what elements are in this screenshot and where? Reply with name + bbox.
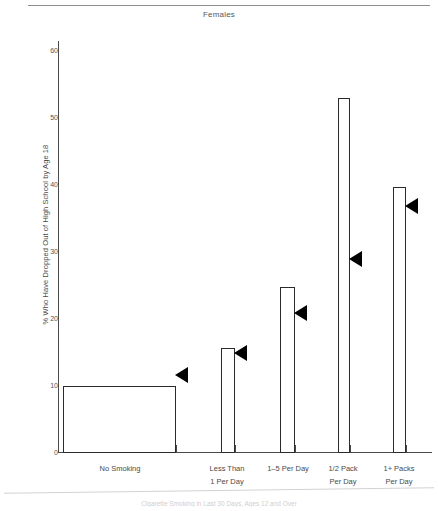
x-label-less-than-1-per-day-line1: Less Than bbox=[210, 462, 245, 475]
plot-area: 0 10 20 30 40 50 60 bbox=[58, 38, 432, 454]
x-tick-mark-1 bbox=[176, 445, 177, 453]
bar-1-plus-packs-per-day[interactable] bbox=[338, 98, 350, 453]
y-tick-40: 40 bbox=[18, 181, 58, 188]
pointer-bar-1-icon bbox=[175, 367, 188, 383]
x-label-1-5-per-day-line1: 1–5 Per Day bbox=[267, 462, 309, 475]
x-tick-mark-9 bbox=[406, 445, 407, 453]
y-tick-50: 50 bbox=[18, 114, 58, 121]
chart-page: Females % Who Have Dropped Out of High S… bbox=[0, 0, 438, 511]
x-label-no-smoking-line1: No Smoking bbox=[100, 462, 141, 475]
y-tick-60: 60 bbox=[18, 47, 58, 54]
x-tick-mark-7 bbox=[350, 445, 351, 453]
bar-half-pack-per-day[interactable] bbox=[393, 187, 406, 453]
pointer-bar-4-icon bbox=[349, 251, 362, 267]
y-tick-0: 0 bbox=[18, 449, 58, 456]
bar-1-5-per-day[interactable] bbox=[280, 287, 295, 453]
x-label-1-5-per-day: 1–5 Per Day bbox=[267, 462, 309, 475]
pointer-bar-3-icon bbox=[294, 305, 307, 321]
x-label-1-plus-packs-per-day: 1+ Packs Per Day bbox=[383, 462, 414, 488]
x-label-half-pack-per-day-line1: 1/2 Pack bbox=[328, 462, 357, 475]
x-label-no-smoking: No Smoking bbox=[100, 462, 141, 475]
y-tick-30: 30 bbox=[18, 248, 58, 255]
x-tick-mark-3 bbox=[235, 445, 236, 453]
chart-title: Females bbox=[0, 10, 438, 19]
x-tick-mark-5 bbox=[295, 445, 296, 453]
x-label-half-pack-per-day: 1/2 Pack Per Day bbox=[328, 462, 357, 488]
x-label-less-than-1-per-day: Less Than 1 Per Day bbox=[210, 462, 245, 488]
pointer-bar-2-icon bbox=[234, 345, 247, 361]
y-tick-10: 10 bbox=[18, 382, 58, 389]
bar-no-smoking[interactable] bbox=[63, 386, 176, 453]
x-label-1-plus-packs-per-day-line1: 1+ Packs bbox=[383, 462, 414, 475]
pointer-bar-5-icon bbox=[405, 198, 418, 214]
bar-less-than-1-per-day[interactable] bbox=[221, 348, 235, 453]
top-divider bbox=[28, 5, 430, 6]
x-label-half-pack-per-day-line2: Per Day bbox=[328, 475, 357, 488]
y-tick-20: 20 bbox=[18, 315, 58, 322]
x-axis-labels: No Smoking Less Than 1 Per Day 1–5 Per D… bbox=[0, 462, 438, 502]
x-label-1-plus-packs-per-day-line2: Per Day bbox=[383, 475, 414, 488]
x-label-less-than-1-per-day-line2: 1 Per Day bbox=[210, 475, 245, 488]
figure-caption: Cigarette Smoking in Last 30 Days, Ages … bbox=[0, 500, 438, 507]
